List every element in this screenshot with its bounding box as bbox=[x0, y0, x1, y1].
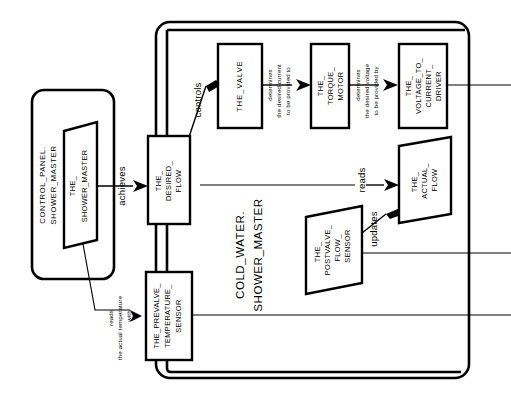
node-voltage-driver-line2: VOLTAGE_TO_ bbox=[414, 57, 423, 114]
node-torque-motor-line1: THE_ bbox=[316, 75, 325, 96]
diagram-canvas: THE_ SHOWER_MASTER CONTROL_PANEL. SHOWER… bbox=[0, 0, 511, 403]
node-postvalve-sensor-line4: SENSOR bbox=[343, 229, 352, 262]
label-reads-temperature-line3: with bbox=[125, 310, 132, 323]
label-determines-voltage-line1: determines bbox=[354, 69, 361, 101]
label-controls: controls bbox=[192, 82, 203, 117]
node-prevalve-sensor-line1: THE_PREVALVE_ bbox=[152, 283, 161, 349]
node-torque-motor-line3: MOTOR bbox=[336, 71, 345, 100]
node-the-desired-flow-line2: DESIRED_ bbox=[164, 161, 173, 201]
node-the-valve-label: THE_VALVE bbox=[235, 60, 244, 112]
label-determines-current-line2: the desired current bbox=[275, 64, 282, 118]
node-the-desired-flow-line3: FLOW bbox=[174, 170, 183, 193]
arrowhead-determines-current bbox=[296, 79, 311, 91]
node-voltage-driver-line4: DRIVER bbox=[434, 71, 443, 101]
node-voltage-driver-line3: CURRENT_ bbox=[424, 64, 433, 108]
node-actual-flow-line2: ACTUAL_ bbox=[420, 163, 429, 199]
node-prevalve-sensor-line2: TEMPERATURE_ bbox=[163, 284, 172, 348]
container-control-panel-title-line2: SHOWER_MASTER bbox=[49, 145, 58, 224]
label-determines-current-line1: determines bbox=[266, 69, 273, 101]
node-the-shower-master-line2: SHOWER_MASTER bbox=[80, 150, 89, 223]
label-determines-voltage-line3: to be provided by bbox=[372, 66, 379, 116]
label-determines-voltage-line2: the desired voltage bbox=[363, 63, 370, 118]
arrowhead-achieves bbox=[133, 180, 148, 192]
arrowhead-reads bbox=[384, 179, 399, 191]
container-control-panel-title-line1: CONTROL_PANEL. bbox=[38, 146, 47, 224]
node-postvalve-sensor-line1: THE_ bbox=[313, 241, 322, 262]
node-voltage-driver-line1: THE_ bbox=[404, 75, 413, 96]
structure-diagram-svg: THE_ SHOWER_MASTER CONTROL_PANEL. SHOWER… bbox=[0, 0, 511, 403]
node-prevalve-sensor-line3: SENSOR bbox=[174, 299, 183, 332]
container-cold-water-title-line2: SHOWER_MASTER bbox=[251, 198, 264, 311]
label-reads-temperature-line1: reads bbox=[107, 310, 114, 326]
node-torque-motor-line2: TORQUE_ bbox=[326, 66, 335, 105]
container-cold-water-title-line1: COLD_WATER. bbox=[233, 211, 246, 299]
node-postvalve-sensor-line2: POSTVALVE_ bbox=[323, 224, 332, 275]
arrowhead-reads-temperature bbox=[130, 310, 142, 322]
label-determines-current-line3: to be provided to bbox=[284, 67, 291, 115]
label-reads-temperature-line2: the actual temperature bbox=[116, 295, 123, 360]
node-the-desired-flow-line1: THE_ bbox=[154, 170, 163, 191]
arrowhead-determines-voltage bbox=[383, 79, 398, 91]
node-postvalve-sensor-line3: FLOW_ bbox=[333, 234, 342, 262]
node-the-shower-master-line1: THE_ bbox=[68, 175, 77, 196]
node-actual-flow-line1: THE_ bbox=[410, 171, 419, 192]
label-achieves: achieves bbox=[116, 166, 127, 205]
link-bottom-rail bbox=[167, 360, 461, 372]
label-updates: updates bbox=[368, 211, 379, 247]
node-actual-flow-line3: FLOW bbox=[430, 169, 439, 192]
label-reads: reads bbox=[356, 167, 367, 192]
